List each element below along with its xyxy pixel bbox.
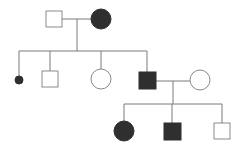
- individual-II-2-unaffected-male: [42, 71, 58, 87]
- individual-II-5-unaffected-female: [190, 70, 210, 90]
- individual-I-2-affected-female: [91, 9, 111, 29]
- pedigree-svg: [0, 0, 242, 150]
- individual-III-1-affected-female: [114, 121, 134, 141]
- individual-III-3-unaffected-male: [214, 123, 230, 139]
- individual-II-4-affected-male: [139, 72, 156, 89]
- individual-II-1-small-dot: [15, 76, 23, 84]
- individual-II-3-unaffected-female: [91, 69, 111, 89]
- pedigree-chart: [0, 0, 242, 150]
- individual-I-1-unaffected-male: [46, 11, 62, 27]
- individual-III-2-affected-male: [164, 123, 181, 140]
